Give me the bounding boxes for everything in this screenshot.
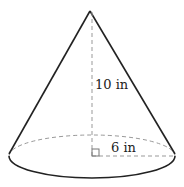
height-label: 10 in	[95, 77, 129, 92]
radius-label: 6 in	[111, 140, 137, 155]
cone-left-side	[9, 11, 90, 154]
cone-diagram: 10 in 6 in	[0, 0, 184, 187]
right-angle-marker	[92, 149, 99, 156]
base-ellipse-front	[9, 156, 175, 178]
